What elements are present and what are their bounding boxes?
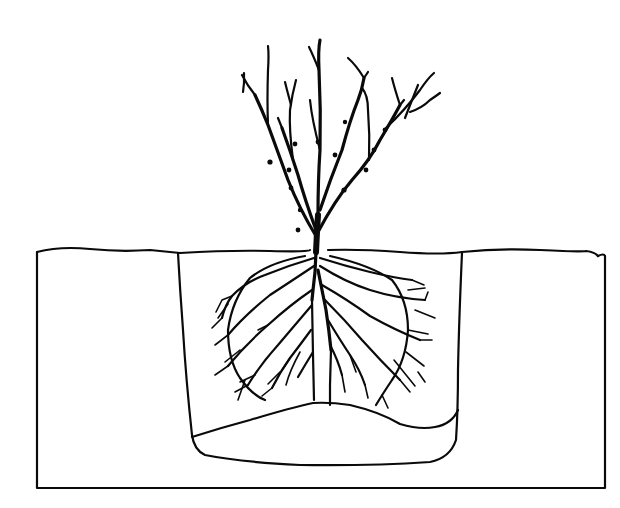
planting-illustration — [0, 0, 620, 508]
bud — [293, 142, 298, 147]
bud — [341, 187, 346, 192]
branches — [242, 40, 440, 252]
cone-mound — [192, 403, 458, 437]
bud — [267, 159, 272, 164]
bud — [343, 120, 347, 124]
bud — [298, 208, 302, 212]
bud — [333, 153, 338, 158]
illustration-svg — [0, 0, 620, 508]
bud — [316, 140, 321, 145]
bud — [296, 228, 301, 233]
spread-roots — [212, 252, 435, 408]
bud — [289, 186, 294, 191]
bud — [287, 168, 292, 173]
bud — [383, 128, 388, 133]
bud — [372, 148, 377, 153]
bud — [364, 168, 369, 173]
